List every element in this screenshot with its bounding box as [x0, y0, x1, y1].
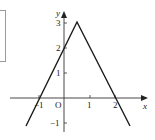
x-tick-label-neg1: −1 — [34, 100, 44, 110]
y-axis-label: y — [55, 8, 60, 18]
y-tick-label-3: 3 — [56, 18, 61, 28]
function-line — [26, 22, 130, 126]
y-tick-label-2: 2 — [56, 43, 61, 53]
x-axis-label: x — [142, 101, 147, 111]
y-tick-label-1: 1 — [56, 68, 61, 78]
origin-label: O — [55, 100, 62, 110]
y-axis-arrow-icon — [61, 11, 67, 18]
x-tick-label-2: 2 — [113, 100, 118, 110]
x-tick-label-1: 1 — [87, 100, 92, 110]
y-tick-label-neg1: −1 — [50, 118, 60, 128]
function-graph: y x O 3 2 1 −1 −1 1 2 — [0, 0, 155, 140]
